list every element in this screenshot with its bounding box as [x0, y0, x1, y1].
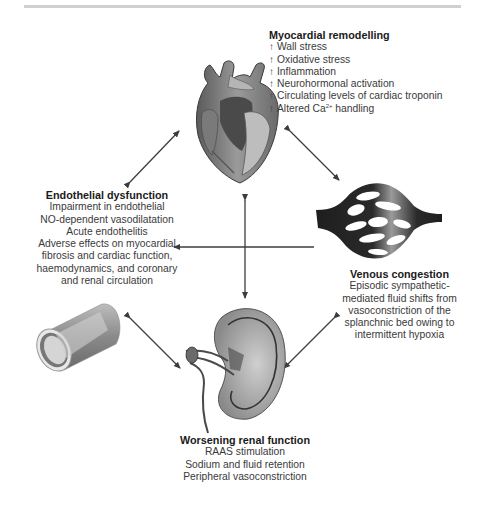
endothelial-item: haemodynamics, and coronary	[22, 263, 192, 275]
venous-item: Episodic sympathetic-	[322, 280, 477, 292]
renal-item: Sodium and fluid retention	[160, 459, 330, 471]
endothelial-item: Impairment in endothelial	[22, 201, 192, 213]
venous-item: vasoconstriction of the	[322, 305, 477, 317]
renal-item: Peripheral vasoconstriction	[160, 471, 330, 483]
arrow-up-icon: ↑	[269, 66, 277, 78]
endothelial-item: and renal circulation	[22, 275, 192, 287]
endothelial-item: Adverse effects on myocardial	[22, 238, 192, 250]
myocardial-item: ↑Altered Ca2+ handling	[269, 103, 442, 115]
endothelial-item: Acute endothelitis	[22, 226, 192, 238]
myocardial-remodelling-block: Myocardial remodelling ↑Wall stress ↑Oxi…	[269, 29, 442, 115]
arrow-up-icon: ↑	[269, 41, 277, 53]
renal-item: RAAS stimulation	[160, 446, 330, 458]
kidney-illustration	[182, 303, 292, 438]
arrow-myocardial-venous	[290, 131, 339, 180]
venous-congestion-title: Venous congestion	[322, 268, 477, 280]
myocardial-item: ↑Neurohormonal activation	[269, 78, 442, 90]
venous-item: intermittent hypoxia	[322, 329, 477, 341]
endothelial-dysfunction-title: Endothelial dysfunction	[22, 189, 192, 201]
venous-congestion-block: Venous congestion Episodic sympathetic- …	[322, 268, 477, 342]
arrow-up-icon: ↑	[269, 78, 277, 90]
myocardial-remodelling-title: Myocardial remodelling	[269, 29, 442, 41]
endothelial-item: NO-dependent vasodilatation	[22, 214, 192, 226]
arrow-endothelial-renal	[130, 318, 180, 368]
myocardial-item: ↑Oxidative stress	[269, 54, 442, 66]
venous-item: splanchnic bed owing to	[322, 317, 477, 329]
worsening-renal-function-block: Worsening renal function RAAS stimulatio…	[160, 434, 330, 483]
arrow-up-icon: ↑	[269, 90, 277, 102]
arrow-endothelial-myocardial	[130, 131, 179, 182]
myocardial-item: ↑Circulating levels of cardiac troponin	[269, 90, 442, 102]
arrow-up-icon: ↑	[269, 103, 277, 115]
venous-network-illustration	[314, 180, 444, 262]
arrow-up-icon: ↑	[269, 54, 277, 66]
endothelial-dysfunction-block: Endothelial dysfunction Impairment in en…	[22, 189, 192, 287]
endothelial-item: fibrosis and cardiac function,	[22, 250, 192, 262]
myocardial-item: ↑Inflammation	[269, 66, 442, 78]
venous-item: mediated fluid shifts from	[322, 293, 477, 305]
blood-vessel-illustration	[30, 300, 125, 375]
myocardial-item: ↑Wall stress	[269, 41, 442, 53]
worsening-renal-function-title: Worsening renal function	[160, 434, 330, 446]
